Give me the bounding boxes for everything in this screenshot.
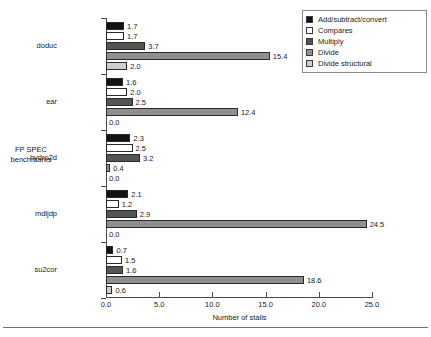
legend-swatch bbox=[306, 38, 313, 45]
bar-value-label: 18.6 bbox=[307, 276, 322, 285]
x-tick-label: 10.0 bbox=[205, 300, 220, 309]
y-axis-title: FP SPECbenchmarks bbox=[2, 145, 60, 165]
y-tick-mark bbox=[101, 130, 106, 131]
bar-value-label: 1.6 bbox=[126, 78, 136, 87]
bar bbox=[106, 134, 130, 142]
bar-value-label: 2.0 bbox=[130, 88, 140, 97]
bar-value-label: 2.9 bbox=[140, 210, 150, 219]
bar bbox=[106, 78, 123, 86]
category-label-mdljdp: mdljdp bbox=[35, 209, 57, 218]
bar-value-label: 2.0 bbox=[130, 62, 140, 71]
y-tick-mark bbox=[101, 186, 106, 187]
bar bbox=[106, 220, 367, 228]
bar bbox=[106, 164, 110, 172]
bar-value-label: 0.0 bbox=[109, 174, 119, 183]
x-tick-label: 25.0 bbox=[365, 300, 380, 309]
x-tick-label: 0.0 bbox=[101, 300, 111, 309]
y-tick-mark bbox=[101, 74, 106, 75]
bar bbox=[106, 210, 137, 218]
bar bbox=[106, 246, 113, 254]
legend: Add/subtract/convertComparesMultiplyDivi… bbox=[302, 10, 427, 73]
x-tick-label: 20.0 bbox=[311, 300, 326, 309]
y-tick-mark bbox=[101, 242, 106, 243]
bar bbox=[106, 256, 122, 264]
bar-value-label: 1.7 bbox=[127, 32, 137, 41]
bar bbox=[106, 276, 304, 284]
x-tick-label: 15.0 bbox=[258, 300, 273, 309]
legend-swatch bbox=[306, 16, 313, 23]
legend-label: Divide bbox=[318, 48, 339, 57]
bar bbox=[106, 88, 127, 96]
x-axis-line bbox=[106, 297, 373, 298]
legend-swatch bbox=[306, 49, 313, 56]
legend-item: Add/subtract/convert bbox=[306, 14, 422, 25]
y-axis-title-line: FP SPEC bbox=[2, 145, 60, 155]
category-label-doduc: doduc bbox=[37, 41, 57, 50]
bar-value-label: 1.2 bbox=[122, 200, 132, 209]
bar bbox=[106, 200, 119, 208]
y-tick-mark bbox=[101, 18, 106, 19]
legend-swatch bbox=[306, 60, 313, 67]
bar bbox=[106, 154, 140, 162]
bar bbox=[106, 98, 133, 106]
bar-chart-figure: 0.05.010.015.020.025.0 1.71.73.715.42.01… bbox=[0, 0, 431, 337]
x-tick-mark bbox=[266, 292, 267, 297]
bar-value-label: 2.5 bbox=[136, 144, 146, 153]
category-label-su2cor: su2cor bbox=[34, 265, 57, 274]
legend-swatch bbox=[306, 27, 313, 34]
bar bbox=[106, 266, 123, 274]
x-tick-mark bbox=[159, 292, 160, 297]
bottom-divider bbox=[3, 327, 428, 328]
bar-value-label: 1.6 bbox=[126, 266, 136, 275]
bar-value-label: 2.1 bbox=[131, 190, 141, 199]
bar-value-label: 2.5 bbox=[136, 98, 146, 107]
bar-value-label: 12.4 bbox=[241, 108, 256, 117]
x-tick-mark bbox=[212, 292, 213, 297]
legend-item: Compares bbox=[306, 25, 422, 36]
y-tick-mark bbox=[101, 298, 106, 299]
bar-value-label: 0.0 bbox=[109, 230, 119, 239]
bar bbox=[106, 42, 145, 50]
bar bbox=[106, 52, 270, 60]
bar bbox=[106, 62, 127, 70]
bar-value-label: 15.4 bbox=[273, 52, 288, 61]
bar-value-label: 24.5 bbox=[370, 220, 385, 229]
y-axis-title-line: benchmarks bbox=[2, 155, 60, 165]
legend-label: Multiply bbox=[318, 37, 343, 46]
x-axis-title: Number of stalls bbox=[106, 313, 373, 323]
bar bbox=[106, 286, 112, 294]
bar-value-label: 0.4 bbox=[113, 164, 123, 173]
bar bbox=[106, 144, 133, 152]
x-tick-mark bbox=[319, 292, 320, 297]
bar bbox=[106, 190, 128, 198]
bar bbox=[106, 108, 238, 116]
bar-value-label: 0.7 bbox=[116, 246, 126, 255]
legend-item: Multiply bbox=[306, 36, 422, 47]
bar-value-label: 1.7 bbox=[127, 22, 137, 31]
bar-value-label: 2.3 bbox=[133, 134, 143, 143]
bar-value-label: 0.6 bbox=[115, 286, 125, 295]
legend-label: Add/subtract/convert bbox=[318, 15, 387, 24]
bar bbox=[106, 32, 124, 40]
bar bbox=[106, 22, 124, 30]
bar-value-label: 3.2 bbox=[143, 154, 153, 163]
x-tick-label: 5.0 bbox=[154, 300, 164, 309]
legend-label: Divide structural bbox=[318, 59, 372, 68]
bar-value-label: 1.5 bbox=[125, 256, 135, 265]
bar-value-label: 3.7 bbox=[148, 42, 158, 51]
legend-item: Divide structural bbox=[306, 58, 422, 69]
bar-value-label: 0.0 bbox=[109, 118, 119, 127]
legend-item: Divide bbox=[306, 47, 422, 58]
category-label-ear: ear bbox=[46, 97, 57, 106]
x-tick-mark bbox=[372, 292, 373, 297]
legend-label: Compares bbox=[318, 26, 353, 35]
